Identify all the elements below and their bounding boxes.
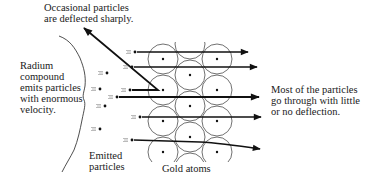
gold-nucleus	[189, 105, 191, 107]
alpha-particle	[91, 128, 101, 131]
gold-atom	[175, 122, 205, 152]
gold-nucleus	[216, 151, 218, 153]
slightly-deflected-path	[134, 140, 260, 149]
gold-nucleus	[162, 151, 164, 153]
alpha-particle	[108, 96, 118, 99]
alpha-particle	[126, 51, 136, 54]
gold-atom	[202, 44, 232, 74]
deflected-path	[84, 28, 158, 90]
gold-atoms-label: Gold atoms	[162, 163, 211, 174]
gold-atom	[202, 75, 232, 105]
emitted-particles-label: Emitted particles	[89, 150, 125, 172]
gold-nucleus	[162, 120, 164, 122]
gold-nucleus	[162, 89, 164, 91]
gold-atom	[148, 44, 178, 74]
gold-nucleus	[216, 89, 218, 91]
gold-atom	[148, 106, 178, 136]
alpha-particle	[98, 72, 108, 75]
alpha-particle	[131, 116, 141, 119]
gold-nucleus	[216, 58, 218, 60]
gold-atom-outline	[175, 29, 205, 59]
gold-nucleus	[189, 74, 191, 76]
alpha-particle	[121, 89, 131, 92]
gold-atom	[175, 29, 205, 59]
gold-nucleus	[216, 120, 218, 122]
emitted-particles	[91, 51, 141, 142]
gold-atom	[202, 106, 232, 136]
gold-nucleus	[162, 58, 164, 60]
alpha-particle	[123, 139, 133, 142]
particle-paths	[84, 28, 261, 149]
alpha-particle	[91, 88, 101, 91]
gold-nucleus	[189, 136, 191, 138]
most-particles-label: Most of the particles go through with li…	[271, 84, 360, 117]
alpha-particle	[96, 105, 106, 108]
radium-label: Radium compound emits particles with eno…	[20, 60, 83, 115]
gold-atom	[175, 60, 205, 90]
deflected-label: Occasional particles are deflected sharp…	[44, 2, 133, 24]
